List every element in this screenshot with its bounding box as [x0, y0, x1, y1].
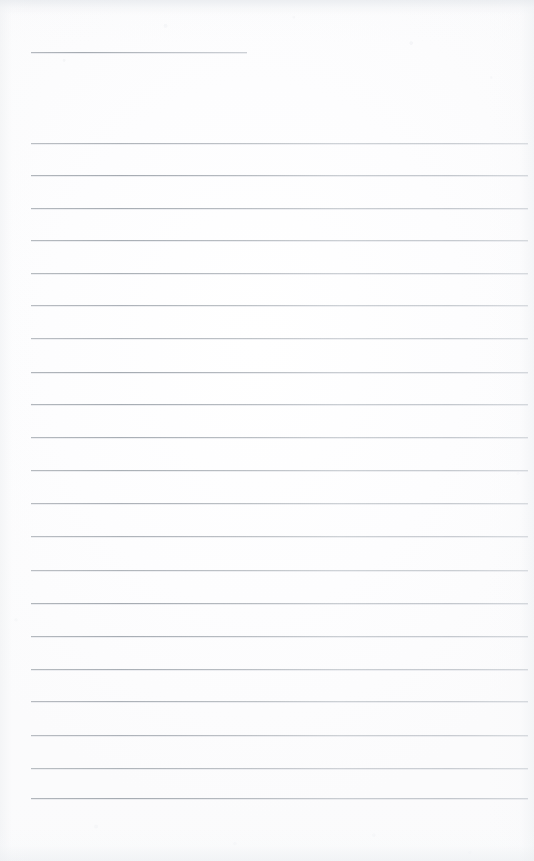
- ruled-line: [31, 735, 528, 736]
- ruled-line: [31, 768, 528, 769]
- ruled-line: [31, 338, 528, 339]
- ruled-line: [31, 536, 528, 537]
- ruled-line: [31, 143, 528, 144]
- ruled-line: [31, 404, 528, 405]
- ruled-line: [31, 503, 528, 504]
- ruled-line: [31, 305, 528, 306]
- ruled-line: [31, 636, 528, 637]
- ruled-line: [31, 372, 528, 373]
- ruled-line: [31, 240, 528, 241]
- ruled-line: [31, 273, 528, 274]
- ruled-line: [31, 175, 528, 176]
- ruled-line: [31, 437, 528, 438]
- writing-area: [0, 0, 534, 861]
- ruled-line: [31, 208, 528, 209]
- ruled-line: [31, 603, 528, 604]
- ruled-line: [31, 669, 528, 670]
- ruled-line: [31, 701, 528, 702]
- ruled-line: [31, 470, 528, 471]
- ruled-line: [31, 570, 528, 571]
- scanned-page: [0, 0, 534, 861]
- header-rule: [31, 52, 247, 53]
- ruled-line: [31, 798, 528, 799]
